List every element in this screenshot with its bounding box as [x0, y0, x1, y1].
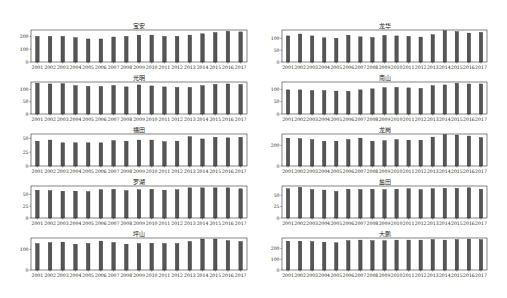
x-tick-label: 2004 — [318, 273, 330, 278]
bar-2014 — [443, 135, 446, 166]
bar-2015 — [455, 32, 458, 62]
bar-2017 — [239, 137, 243, 166]
bar-2006 — [347, 91, 350, 114]
bar-2016 — [467, 84, 470, 114]
bar-2015 — [213, 188, 217, 218]
y-tick-label: 50 — [274, 48, 280, 53]
bar-2012 — [175, 141, 179, 166]
bar-2008 — [125, 141, 129, 166]
y-tick-label: 100 — [20, 47, 29, 52]
x-tick-label: 2003 — [306, 169, 318, 174]
x-tick-label: 2016 — [222, 65, 234, 70]
bar-2015 — [213, 239, 217, 270]
bar-2009 — [137, 244, 141, 270]
x-tick-label: 2015 — [209, 169, 221, 174]
bar-2017 — [239, 189, 243, 218]
bar-2013 — [188, 188, 192, 218]
x-tick-label: 2017 — [475, 169, 487, 174]
bar-2009 — [383, 190, 386, 218]
bar-2003 — [61, 242, 65, 270]
bar-2001 — [36, 141, 40, 166]
bar-2016 — [226, 31, 230, 62]
bar-2001 — [36, 190, 40, 218]
x-tick-label: 2006 — [95, 221, 107, 226]
x-tick-label: 2014 — [439, 169, 451, 174]
x-tick-label: 2013 — [184, 221, 196, 226]
x-tick-label: 2004 — [318, 169, 330, 174]
bar-2004 — [74, 143, 78, 166]
bar-2015 — [455, 188, 458, 218]
bar-2001 — [36, 83, 40, 114]
bar-2012 — [175, 244, 179, 270]
bar-2010 — [395, 36, 398, 62]
bar-2004 — [323, 242, 326, 270]
x-tick-label: 2014 — [439, 117, 451, 122]
x-tick-label: 2009 — [133, 273, 145, 278]
x-tick-label: 2016 — [222, 169, 234, 174]
y-tick-label: 25 — [23, 204, 29, 209]
bar-2013 — [431, 189, 434, 218]
y-tick-label: 200 — [20, 34, 29, 39]
x-tick-label: 2005 — [82, 169, 94, 174]
bar-2002 — [48, 84, 52, 114]
small-multiples-figure: 宝安20012002200320042005200620072008200920… — [0, 0, 507, 298]
x-tick-label: 2013 — [184, 65, 196, 70]
bar-2006 — [99, 143, 103, 166]
bar-2009 — [137, 190, 141, 218]
x-tick-label: 2003 — [57, 221, 69, 226]
y-tick-label: 200 — [271, 246, 280, 251]
bar-2014 — [201, 188, 205, 218]
bar-2017 — [479, 189, 482, 218]
bar-2014 — [201, 239, 205, 270]
x-tick-label: 2006 — [342, 221, 354, 226]
x-tick-label: 2006 — [342, 273, 354, 278]
bar-2006 — [347, 140, 350, 166]
bar-2008 — [371, 241, 374, 270]
x-tick-label: 2001 — [32, 273, 44, 278]
bar-2012 — [175, 190, 179, 218]
bar-2002 — [298, 139, 301, 166]
bar-2017 — [479, 84, 482, 114]
x-tick-label: 2010 — [391, 117, 403, 122]
bar-2016 — [467, 239, 470, 270]
x-tick-label: 2004 — [318, 65, 330, 70]
x-tick-label: 2002 — [294, 169, 306, 174]
x-tick-label: 2007 — [108, 221, 120, 226]
bar-2015 — [213, 84, 217, 114]
bar-2008 — [125, 191, 129, 218]
bar-2008 — [125, 87, 129, 114]
bar-2007 — [112, 37, 116, 62]
x-tick-label: 2016 — [222, 221, 234, 226]
y-tick-label: 0 — [26, 268, 29, 273]
x-tick-label: 2006 — [95, 117, 107, 122]
x-tick-label: 2004 — [70, 117, 82, 122]
x-tick-label: 2006 — [342, 169, 354, 174]
bar-2011 — [163, 36, 167, 62]
bar-2005 — [86, 244, 90, 270]
x-tick-label: 2010 — [391, 273, 403, 278]
bar-2012 — [419, 140, 422, 166]
y-tick-label: 50 — [23, 192, 29, 197]
bar-2015 — [213, 137, 217, 166]
bar-2004 — [74, 191, 78, 218]
bar-2012 — [175, 87, 179, 114]
y-tick-label: 50 — [274, 99, 280, 104]
y-tick-label: 100 — [271, 87, 280, 92]
bar-2009 — [137, 140, 141, 166]
x-tick-label: 2008 — [367, 221, 379, 226]
bar-2005 — [86, 86, 90, 114]
x-tick-label: 2011 — [159, 65, 171, 70]
bar-2003 — [310, 190, 313, 218]
subplot-4: 南山20012002200320042005200620072008200920… — [271, 74, 487, 122]
bar-2007 — [112, 243, 116, 270]
bar-2007 — [112, 85, 116, 114]
x-tick-label: 2013 — [427, 273, 439, 278]
x-tick-label: 2003 — [57, 117, 69, 122]
x-tick-label: 2008 — [120, 273, 132, 278]
bar-2011 — [407, 189, 410, 218]
bar-2013 — [431, 240, 434, 270]
bar-2004 — [323, 91, 326, 114]
bar-2011 — [407, 240, 410, 270]
x-tick-label: 2005 — [82, 221, 94, 226]
bar-2007 — [359, 138, 362, 166]
